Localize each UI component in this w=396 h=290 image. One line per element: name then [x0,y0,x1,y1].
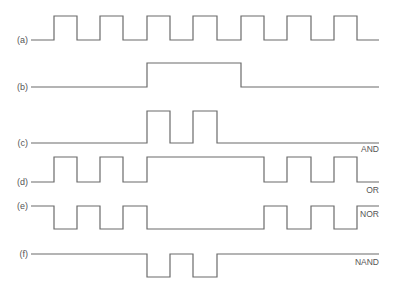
signal-d: (d)OR [17,157,379,195]
waveform [31,206,379,229]
signal-label: (b) [17,82,28,92]
signal-c: (c)AND [18,111,380,154]
signal-e: (e)NOR [17,201,379,229]
signal-a: (a) [17,16,379,45]
waveform [31,157,379,182]
timing-diagram: (a)(b)(c)AND(d)OR(e)NOR(f)NAND [0,0,396,290]
signal-label: (f) [20,249,29,259]
waveform [31,63,379,87]
waveform [31,16,379,40]
signal-label: (a) [17,35,28,45]
signal-label: (c) [18,138,29,148]
signal-b: (b) [17,63,379,92]
gate-label-nand: NAND [355,257,379,267]
waveform [31,111,379,143]
gate-label-or: OR [366,185,379,195]
signal-label: (d) [17,177,28,187]
waveform [31,254,379,277]
gate-label-nor: NOR [360,209,379,219]
gate-label-and: AND [361,144,379,154]
signal-label: (e) [17,201,28,211]
signal-f: (f)NAND [20,249,380,277]
